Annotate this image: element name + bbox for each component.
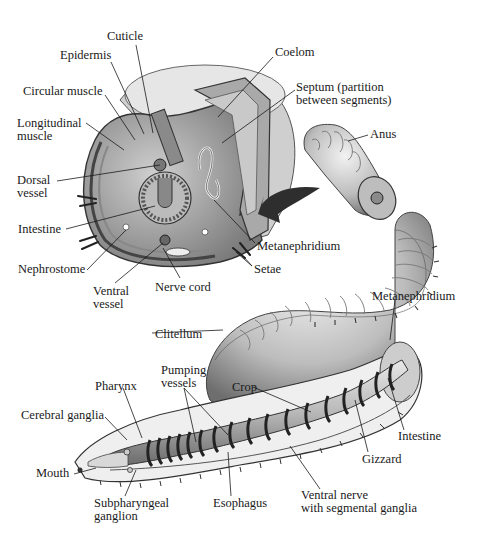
label-circular-muscle: Circular muscle xyxy=(23,85,103,98)
earthworm-anatomy-diagram: Cuticle Epidermis Circular muscle Longit… xyxy=(0,0,484,539)
label-coelom: Coelom xyxy=(275,46,315,59)
label-nerve-cord: Nerve cord xyxy=(155,281,211,294)
label-intestine-cross-section: Intestine xyxy=(18,223,61,236)
label-mouth: Mouth xyxy=(36,467,69,480)
label-anus: Anus xyxy=(370,128,396,141)
label-metanephridium: Metanephridium xyxy=(372,290,455,303)
label-epidermis: Epidermis xyxy=(60,49,111,62)
label-ventral-nerve: Ventral nerve with segmental ganglia xyxy=(301,489,417,515)
label-subpharyngeal-ganglion: Subpharyngeal ganglion xyxy=(94,497,169,523)
label-septum: Septum (partition between segments) xyxy=(296,81,391,107)
label-intestine: Intestine xyxy=(398,430,441,443)
cross-section-illustration xyxy=(78,65,295,267)
label-longitudinal-muscle: Longitudinal muscle xyxy=(17,117,82,143)
label-nephrostome: Nephrostome xyxy=(18,263,85,276)
label-gizzard: Gizzard xyxy=(362,453,402,466)
label-crop: Crop xyxy=(232,381,257,394)
label-dorsal-vessel: Dorsal vessel xyxy=(17,174,50,200)
label-cuticle: Cuticle xyxy=(107,30,143,43)
label-cerebral-ganglia: Cerebral ganglia xyxy=(21,409,104,422)
label-ventral-vessel: Ventral vessel xyxy=(93,285,129,311)
label-esophagus: Esophagus xyxy=(213,497,267,510)
label-pharynx: Pharynx xyxy=(95,380,137,393)
label-metanephridium-cross-section: Metanephridium xyxy=(257,240,340,253)
label-setae: Setae xyxy=(254,263,281,276)
label-pumping-vessels: Pumping vessels xyxy=(161,364,206,390)
label-clitellum: Clitellum xyxy=(155,328,202,341)
